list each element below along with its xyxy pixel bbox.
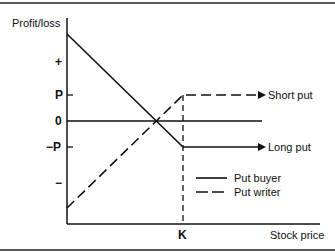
- put-writer-line: [67, 95, 258, 208]
- tick-label-minus: −: [55, 177, 62, 189]
- tick-label-zero: 0: [55, 115, 62, 127]
- short-put-arrow-icon: [258, 91, 266, 99]
- put-buyer-line: [67, 34, 258, 147]
- chart-canvas: [0, 0, 335, 252]
- long-put-label: Long put: [268, 141, 311, 153]
- legend-writer-label: Put writer: [234, 186, 280, 198]
- legend-buyer-label: Put buyer: [234, 172, 281, 184]
- tick-label-minus-p: −P: [46, 141, 61, 153]
- x-axis-label: Stock price: [270, 229, 324, 241]
- short-put-label: Short put: [268, 89, 313, 101]
- tick-label-plus: +: [55, 56, 62, 68]
- tick-label-k: K: [178, 229, 187, 241]
- y-axis-label: Profit/loss: [12, 17, 60, 29]
- long-put-arrow-icon: [258, 143, 266, 151]
- tick-label-p: P: [55, 89, 63, 101]
